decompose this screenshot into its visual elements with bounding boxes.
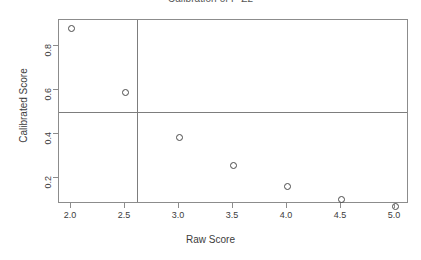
horizontal-reference-line (59, 112, 407, 113)
x-axis-tick-label: 3.5 (212, 210, 252, 220)
y-axis-tick (53, 45, 58, 46)
x-axis-tick-label: 4.5 (320, 210, 360, 220)
x-axis-tick (394, 203, 395, 208)
x-axis-label: Raw Score (0, 234, 421, 245)
x-axis-tick-label: 3.0 (158, 210, 198, 220)
data-point (176, 134, 183, 141)
x-axis-tick-label: 2.5 (104, 210, 144, 220)
x-axis-tick (70, 203, 71, 208)
plot-frame (58, 19, 408, 203)
y-axis-tick-label: 0.4 (43, 132, 53, 158)
vertical-reference-line (137, 20, 138, 202)
x-axis-tick-label: 4.0 (266, 210, 306, 220)
x-axis-tick-label: 2.0 (50, 210, 90, 220)
x-axis-tick (286, 203, 287, 208)
x-axis-tick-label: 5.0 (374, 210, 414, 220)
calibration-plot-screenshot: Calibration of P-Z2 2.02.53.03.54.04.55.… (0, 0, 421, 260)
x-axis-tick (178, 203, 179, 208)
y-axis-tick-label: 0.2 (43, 176, 53, 202)
x-axis-tick (232, 203, 233, 208)
x-axis-tick (124, 203, 125, 208)
data-point (230, 162, 237, 169)
y-axis-tick (53, 133, 58, 134)
y-axis-tick-label: 0.6 (43, 88, 53, 114)
data-point (122, 89, 129, 96)
x-axis-tick (340, 203, 341, 208)
data-point (338, 196, 345, 203)
y-axis-tick (53, 89, 58, 90)
y-axis-label: Calibrated Score (18, 36, 29, 176)
data-point (68, 25, 75, 32)
y-axis-tick (53, 177, 58, 178)
chart-title: Calibration of P-Z2 (0, 0, 421, 4)
data-point (284, 183, 291, 190)
y-axis-tick-label: 0.8 (43, 44, 53, 70)
